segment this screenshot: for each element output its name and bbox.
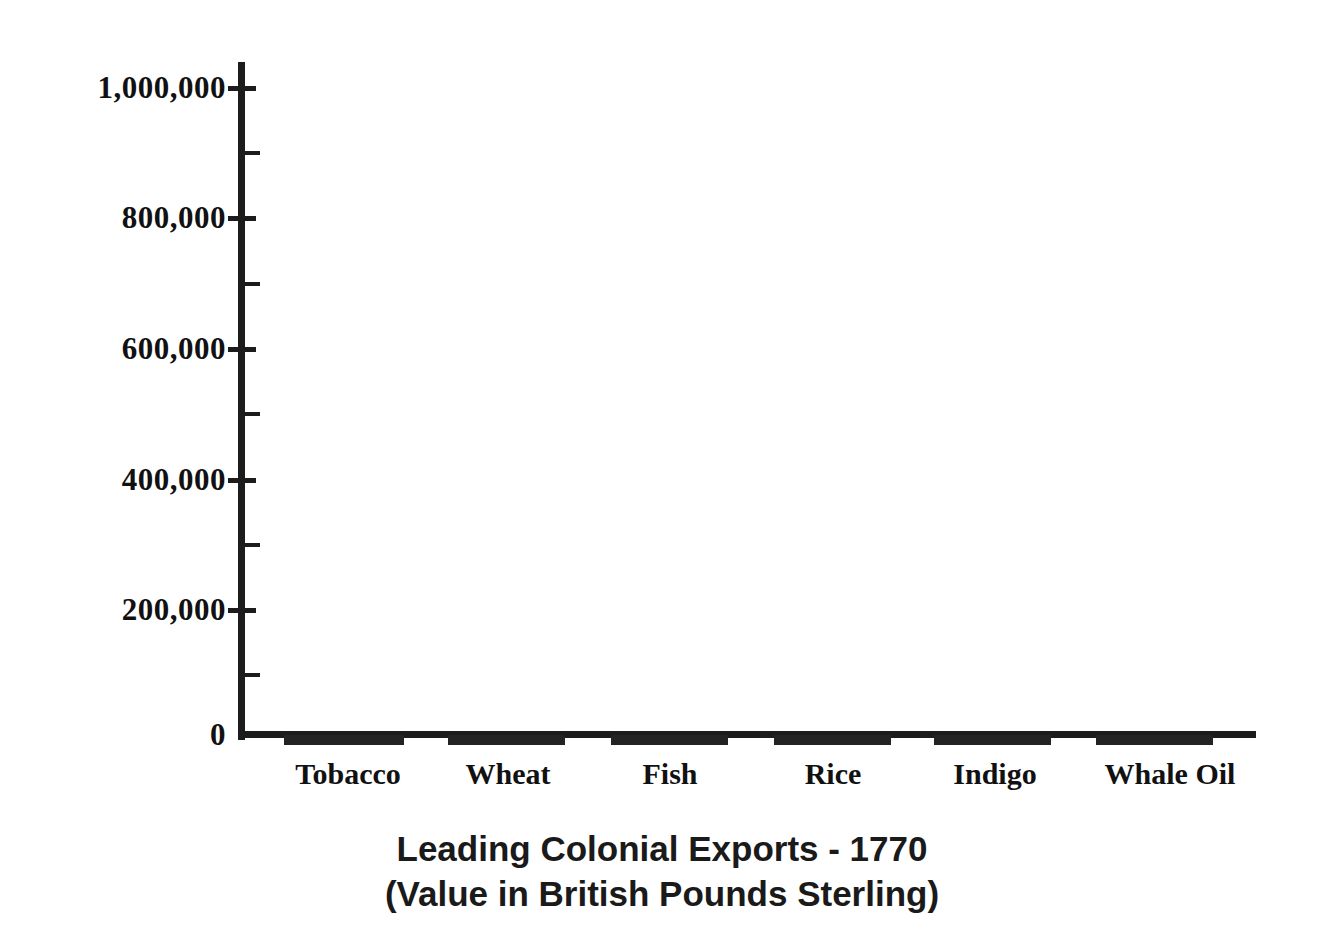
y-tick-minor: [244, 282, 260, 286]
y-tick-label: 800,000: [122, 200, 226, 236]
y-tick-major: [228, 478, 256, 483]
chart-title-line-2: (Value in British Pounds Sterling): [0, 871, 1324, 916]
y-tick-label: 200,000: [122, 592, 226, 628]
y-tick-label: 600,000: [122, 331, 226, 367]
chart-title-block: Leading Colonial Exports - 1770 (Value i…: [0, 826, 1324, 916]
y-tick-minor: [244, 673, 260, 677]
bar: [284, 735, 404, 745]
y-tick-major: [228, 608, 256, 613]
bar: [774, 735, 891, 745]
bar: [934, 735, 1051, 745]
y-tick-minor: [244, 151, 260, 155]
y-tick-major: [228, 216, 256, 221]
y-tick-major: [228, 347, 256, 352]
y-tick-label: 0: [210, 717, 226, 753]
y-tick-minor: [244, 543, 260, 547]
bar: [611, 735, 728, 745]
y-tick-minor: [244, 412, 260, 416]
x-tick-label: Whale Oil: [1020, 757, 1320, 791]
y-axis-line: [238, 62, 245, 740]
y-tick-major: [228, 86, 256, 91]
bar-chart: 1,000,000800,000600,000400,000200,0000 T…: [0, 0, 1324, 933]
y-tick-label: 400,000: [122, 462, 226, 498]
chart-title-line-1: Leading Colonial Exports - 1770: [0, 826, 1324, 871]
bar: [1096, 735, 1213, 745]
bar: [448, 735, 565, 745]
y-tick-label: 1,000,000: [98, 70, 227, 106]
